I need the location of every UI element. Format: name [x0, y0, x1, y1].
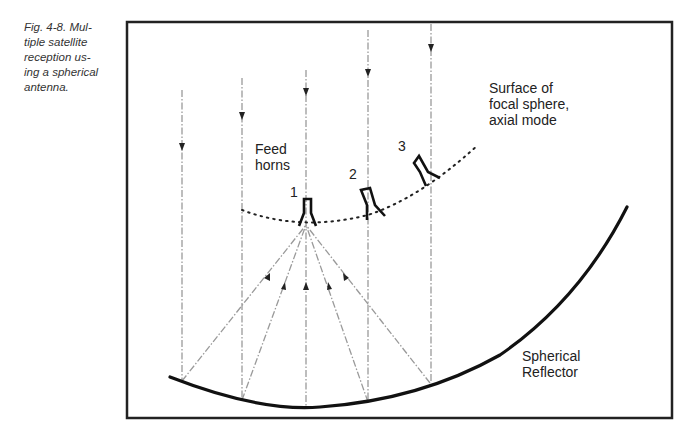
focal-surface-label-line2: focal sphere, — [489, 96, 569, 112]
arrow-down-icon — [239, 112, 245, 120]
horn-label-2: 2 — [349, 166, 357, 182]
spherical-antenna-diagram: 1 2 3 Feed horns Surface of focal sphere… — [0, 0, 691, 442]
arrow-up-icon — [343, 273, 349, 281]
incoming-rays — [182, 24, 431, 407]
arrow-up-icon — [264, 273, 270, 281]
arrow-down-icon — [303, 88, 309, 96]
arrow-up-icon — [303, 282, 309, 290]
reflected-ray — [242, 225, 306, 400]
reflected-ray — [306, 225, 368, 402]
focal-surface-label-line3: axial mode — [489, 112, 557, 128]
arrow-up-icon — [281, 282, 286, 290]
arrow-down-icon — [428, 44, 434, 52]
reflector-label-line1: Spherical — [522, 348, 580, 364]
horn-label-3: 3 — [398, 138, 406, 154]
arrow-up-icon — [327, 282, 332, 290]
feed-horns-label-line2: horns — [255, 157, 290, 173]
focal-surface-label-line1: Surface of — [489, 80, 553, 96]
reflected-ray — [182, 225, 306, 381]
reflector-label-line2: Reflector — [522, 364, 578, 380]
feed-horn-3-icon — [414, 156, 440, 186]
figure-frame — [127, 22, 672, 418]
horn-label-1: 1 — [290, 184, 298, 200]
arrow-down-icon — [365, 69, 371, 77]
arrow-down-icon — [179, 143, 185, 151]
feed-horns-label-line1: Feed — [255, 141, 287, 157]
